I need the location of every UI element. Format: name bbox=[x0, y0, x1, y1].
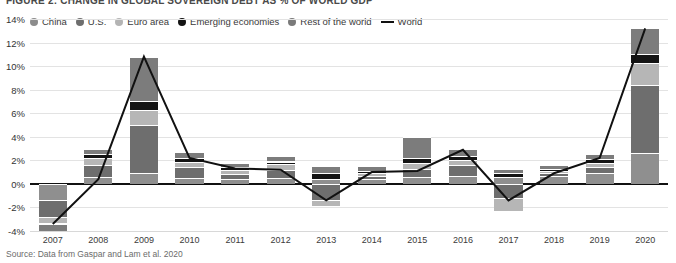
x-axis-tick-label-2014: 2014 bbox=[349, 234, 395, 246]
x-axis-tick-label-2019: 2019 bbox=[577, 234, 623, 246]
world-line-path bbox=[53, 28, 645, 224]
x-axis-tick-label-2007: 2007 bbox=[30, 234, 76, 246]
x-axis-tick-label-2015: 2015 bbox=[395, 234, 441, 246]
y-axis-tick-label: 6% bbox=[11, 109, 25, 118]
x-axis-tick-label-2018: 2018 bbox=[531, 234, 577, 246]
y-axis-tick-label: 14% bbox=[6, 15, 25, 24]
y-axis-tick-label: 12% bbox=[6, 39, 25, 48]
y-axis-tick-label: -4% bbox=[8, 227, 25, 236]
x-axis-tick-label-2012: 2012 bbox=[258, 234, 304, 246]
world-line-series bbox=[30, 19, 668, 231]
x-axis-tick-label-2011: 2011 bbox=[212, 234, 258, 246]
plot-area: 14%12%10%8%6%4%2%0%-2%-4% bbox=[30, 19, 668, 231]
x-axis-tick-label-2016: 2016 bbox=[440, 234, 486, 246]
y-axis-tick-label: 0% bbox=[11, 180, 25, 189]
x-axis-tick-label-2008: 2008 bbox=[76, 234, 122, 246]
x-axis-line bbox=[30, 231, 668, 232]
y-axis-tick-label: 2% bbox=[11, 156, 25, 165]
x-axis-tick-label-2017: 2017 bbox=[486, 234, 532, 246]
x-axis-tick-label-2013: 2013 bbox=[303, 234, 349, 246]
x-axis-tick-label-2020: 2020 bbox=[622, 234, 668, 246]
x-axis-tick-labels: 2007200820092010201120122013201420152016… bbox=[30, 234, 668, 248]
x-axis-tick-label-2010: 2010 bbox=[167, 234, 213, 246]
source-note: Source: Data from Gaspar and Lam et al. … bbox=[6, 249, 183, 259]
y-axis-tick-label: -2% bbox=[8, 203, 25, 212]
y-axis-tick-label: 8% bbox=[11, 86, 25, 95]
y-axis-tick-label: 10% bbox=[6, 62, 25, 71]
page-title: FIGURE 2: CHANGE IN GLOBAL SOVEREIGN DEB… bbox=[6, 0, 426, 6]
x-axis-tick-label-2009: 2009 bbox=[121, 234, 167, 246]
chart-title-cropped: FIGURE 2: CHANGE IN GLOBAL SOVEREIGN DEB… bbox=[6, 0, 426, 7]
chart-container: FIGURE 2: CHANGE IN GLOBAL SOVEREIGN DEB… bbox=[0, 0, 676, 263]
y-axis-tick-label: 4% bbox=[11, 133, 25, 142]
